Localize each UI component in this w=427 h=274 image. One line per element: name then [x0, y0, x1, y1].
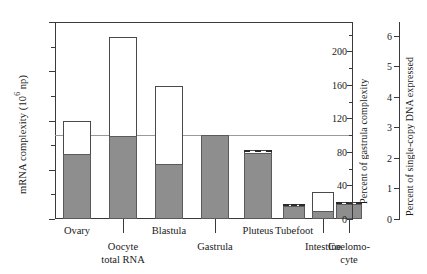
y-axis-middle-tick-label: 200: [317, 46, 347, 57]
y-axis-middle-tick-minor: [349, 102, 353, 103]
y-axis-middle-tick-label: 160: [317, 79, 347, 90]
y-axis-right-tick-label: 2: [378, 152, 392, 163]
x-axis-label-blastula: Blastula: [152, 224, 186, 237]
y-axis-right-tick: [394, 219, 400, 220]
y-axis-right-title: Percent of single-copy DNA expressed: [404, 36, 415, 236]
y-axis-right-tick-label: 0: [378, 214, 392, 225]
y-axis-middle-tick-label: 40: [317, 180, 347, 191]
y-axis-middle-tick-major: [347, 152, 353, 153]
bar-shared-fill: [155, 164, 183, 219]
y-axis-middle-tick-minor: [349, 202, 353, 203]
y-axis-right-tick-label: 5: [378, 61, 392, 72]
y-axis-left-title-tail: np): [17, 74, 28, 91]
y-axis-middle-tick-minor: [349, 135, 353, 136]
y-axis-left-tick-minor: [51, 96, 55, 97]
y-axis-right-tick: [394, 188, 400, 189]
y-axis-right-tick-label: 6: [378, 30, 392, 41]
y-axis-right-tick: [394, 66, 400, 67]
y-axis-right-tick-label: 3: [378, 122, 392, 133]
y-axis-middle-tick-major: [347, 219, 353, 220]
y-axis-middle-tick-label: 0: [317, 214, 347, 225]
bar-oocyte-total-rna[interactable]: [109, 22, 137, 219]
y-axis-middle: 04080120160200: [352, 22, 353, 219]
bar-ovary[interactable]: [63, 22, 91, 219]
x-axis-label-ovary: Ovary: [64, 224, 90, 237]
figure-root: mRNA complexity (106 np) Percent of gast…: [0, 0, 427, 274]
bar-dashed-top-marker: [283, 204, 305, 206]
bar-dashed-top-marker: [244, 150, 272, 152]
bar-tubefoot[interactable]: [283, 22, 305, 219]
bar-pluteus[interactable]: [244, 22, 272, 219]
y-axis-middle-tick-minor: [349, 35, 353, 36]
y-axis-middle-tick-major: [347, 118, 353, 119]
y-axis-right-tick-label: 4: [378, 91, 392, 102]
plot-frame-left: [55, 22, 56, 219]
y-axis-middle-tick-major: [347, 185, 353, 186]
y-axis-middle-tick-label: 80: [317, 146, 347, 157]
bar-shared-fill: [63, 154, 91, 219]
y-axis-middle-tick-major: [347, 85, 353, 86]
y-axis-left-title-main: mRNA complexity (10: [17, 95, 28, 193]
y-axis-left-tick-minor: [51, 47, 55, 48]
bar-shared-fill: [283, 206, 305, 219]
y-axis-left-tick-minor: [51, 145, 55, 146]
y-axis-right: 0123456: [399, 22, 400, 219]
x-axis-label-coelomocyte: Coelomo-cyte: [328, 240, 370, 266]
x-axis-label-oocyte-total-rna: Oocytetotal RNA: [101, 240, 144, 266]
y-axis-left-tick-major: [49, 71, 55, 72]
plot-area: 010203040: [55, 22, 352, 219]
bar-shared-fill: [109, 136, 137, 219]
x-axis-label-pluteus: Pluteus: [243, 224, 274, 237]
x-axis-label-gastrula: Gastrula: [197, 240, 233, 253]
x-axis-leader-tick: [215, 219, 216, 233]
x-axis-label-tubefoot: Tubefoot: [275, 224, 313, 237]
y-axis-left-tick-major: [49, 219, 55, 220]
y-axis-right-tick-label: 1: [378, 183, 392, 194]
bar-gastrula[interactable]: [201, 22, 229, 219]
bar-shared-fill: [244, 153, 272, 219]
y-axis-middle-tick-minor: [349, 169, 353, 170]
y-axis-left-tick-major: [49, 22, 55, 23]
x-axis-leader-tick: [123, 219, 124, 233]
y-axis-middle-tick-label: 120: [317, 113, 347, 124]
y-axis-left-title-exponent: 6: [13, 92, 22, 96]
y-axis-left-title: mRNA complexity (106 np): [13, 44, 28, 224]
y-axis-right-tick: [394, 158, 400, 159]
x-axis-leader-tick: [349, 219, 350, 233]
y-axis-right-tick: [394, 36, 400, 37]
y-axis-left-tick-major: [49, 170, 55, 171]
bar-shared-fill: [201, 135, 229, 219]
bar-blastula[interactable]: [155, 22, 183, 219]
y-axis-middle-tick-minor: [349, 68, 353, 69]
y-axis-left-tick-minor: [51, 194, 55, 195]
y-axis-right-tick: [394, 97, 400, 98]
y-axis-middle-tick-major: [347, 51, 353, 52]
y-axis-right-tick: [394, 127, 400, 128]
y-axis-left-tick-major: [49, 121, 55, 122]
